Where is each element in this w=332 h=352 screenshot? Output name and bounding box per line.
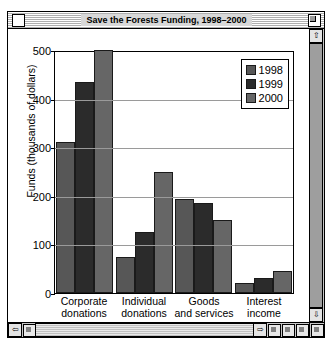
bar-2000 [94, 50, 113, 293]
window-title: Save the Forests Funding, 1998–2000 [25, 14, 308, 26]
resize-grip-icon[interactable] [311, 324, 324, 337]
y-tick-0: 0 [11, 288, 51, 300]
legend-label-1998: 1998 [259, 65, 283, 76]
x-axis-label: Individualdonations [114, 295, 174, 319]
legend-swatch-2000 [246, 93, 256, 103]
bar-group [115, 52, 175, 293]
y-tick-300: 300 [11, 142, 51, 154]
chart-legend: 199819992000 [241, 59, 289, 109]
legend-item-2000: 2000 [246, 91, 283, 105]
y-tick-100: 100 [11, 239, 51, 251]
y-tick-500: 500 [11, 45, 51, 57]
y-tick-200: 200 [11, 191, 51, 203]
bar-2000 [154, 172, 173, 293]
x-axis-label: Corporatedonations [54, 295, 114, 319]
legend-swatch-1998 [246, 65, 256, 75]
window-titlebar[interactable]: Save the Forests Funding, 1998–2000 [8, 12, 324, 29]
bar-1999 [254, 278, 273, 293]
status-icon-2[interactable] [282, 324, 295, 337]
bar-group [55, 52, 115, 293]
status-icon-3[interactable] [296, 324, 309, 337]
bar-2000 [273, 271, 292, 293]
scroll-right-arrow-icon[interactable]: ⇨ [253, 323, 267, 337]
legend-swatch-1999 [246, 79, 256, 89]
window-title-text: Save the Forests Funding, 1998–2000 [81, 14, 251, 26]
bar-2000 [213, 220, 232, 293]
bar-group [174, 52, 234, 293]
status-icon-1[interactable] [268, 324, 281, 337]
scroll-thumb-left-icon[interactable] [23, 324, 36, 337]
bar-chart: Funds (thousands of dollars) 01002003004… [8, 29, 309, 322]
resize-corner[interactable] [309, 322, 324, 337]
chart-window: Save the Forests Funding, 1998–2000 Fund… [7, 11, 325, 338]
bar-1999 [194, 203, 213, 293]
y-axis-ticks: 0100200300400500 [8, 51, 51, 294]
vertical-scroll-thumb[interactable] [309, 43, 323, 308]
scroll-down-arrow-icon[interactable]: ⇩ [309, 308, 323, 322]
legend-item-1999: 1999 [246, 77, 283, 91]
bar-1998 [116, 257, 135, 293]
x-axis-label: Interestincome [234, 295, 294, 319]
gridline-300 [55, 148, 293, 149]
zoom-box-icon[interactable] [308, 14, 321, 27]
legend-item-1998: 1998 [246, 63, 283, 77]
scroll-up-arrow-icon[interactable]: ⇧ [309, 29, 323, 43]
y-tick-400: 400 [11, 94, 51, 106]
bar-1998 [235, 283, 254, 293]
bar-1999 [75, 82, 94, 293]
horizontal-scroll-track[interactable] [35, 323, 254, 337]
bar-1998 [56, 142, 75, 293]
legend-label-2000: 2000 [259, 93, 283, 104]
gridline-200 [55, 197, 293, 198]
gridline-100 [55, 245, 293, 246]
scroll-left-arrow-icon[interactable]: ⇦ [8, 323, 22, 337]
x-axis-label: Goodsand services [174, 295, 234, 319]
x-axis-labels: CorporatedonationsIndividualdonationsGoo… [54, 295, 294, 319]
close-box-icon[interactable] [12, 14, 25, 27]
bar-1999 [135, 232, 154, 293]
vertical-scrollbar[interactable]: ⇧ ⇩ [309, 29, 324, 322]
window-content: Funds (thousands of dollars) 01002003004… [8, 29, 309, 322]
legend-label-1999: 1999 [259, 79, 283, 90]
horizontal-scrollbar[interactable]: ⇦ ⇨ [8, 322, 309, 337]
